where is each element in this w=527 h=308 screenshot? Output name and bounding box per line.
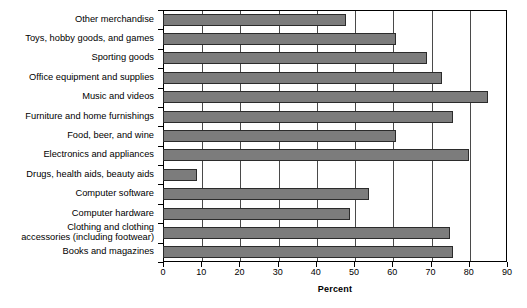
- bar: [163, 14, 346, 26]
- x-tick-label-60: 60: [380, 267, 404, 278]
- category-label-line: Office equipment and supplies: [0, 72, 154, 83]
- x-tick-label-40: 40: [304, 267, 328, 278]
- bar: [163, 91, 488, 103]
- category-label-line: Books and magazines: [0, 246, 154, 257]
- category-label-line: Toys, hobby goods, and games: [0, 33, 154, 44]
- category-label: Drugs, health aids, beauty aids: [0, 169, 154, 180]
- x-tick-label-80: 80: [457, 267, 481, 278]
- category-label-line: Other merchandise: [0, 14, 154, 25]
- gridline-80: [470, 11, 471, 261]
- x-tick-label-10: 10: [189, 267, 213, 278]
- category-label-line: Food, beer, and wine: [0, 130, 154, 141]
- category-label-line: Computer hardware: [0, 208, 154, 219]
- y-tick: [158, 165, 163, 166]
- x-axis-title: Percent: [163, 284, 507, 294]
- x-tick-label-90: 90: [495, 267, 519, 278]
- category-label-line: accessories (including footwear): [0, 232, 154, 243]
- x-tick-label-30: 30: [266, 267, 290, 278]
- category-label: Clothing and clothingaccessories (includ…: [0, 222, 154, 243]
- bar: [163, 33, 396, 45]
- bar-chart: Other merchandiseToys, hobby goods, and …: [0, 0, 527, 308]
- category-label: Food, beer, and wine: [0, 130, 154, 141]
- category-label: Office equipment and supplies: [0, 72, 154, 83]
- category-label: Books and magazines: [0, 246, 154, 257]
- category-label-line: Drugs, health aids, beauty aids: [0, 169, 154, 180]
- category-label: Toys, hobby goods, and games: [0, 33, 154, 44]
- category-label-line: Computer software: [0, 188, 154, 199]
- bar: [163, 130, 396, 142]
- gridline-70: [432, 11, 433, 261]
- bar: [163, 246, 453, 258]
- bar: [163, 149, 469, 161]
- bar: [163, 188, 369, 200]
- bar: [163, 52, 427, 64]
- bar: [163, 227, 450, 239]
- category-label-line: Furniture and home furnishings: [0, 111, 154, 122]
- category-label-line: Clothing and clothing: [0, 222, 154, 233]
- category-label: Other merchandise: [0, 14, 154, 25]
- y-tick: [158, 49, 163, 50]
- category-label-line: Sporting goods: [0, 52, 154, 63]
- x-tick-label-70: 70: [419, 267, 443, 278]
- y-tick: [158, 146, 163, 147]
- x-tick-label-0: 0: [151, 267, 175, 278]
- y-tick: [158, 107, 163, 108]
- y-tick: [158, 184, 163, 185]
- category-label: Computer software: [0, 188, 154, 199]
- y-tick: [158, 68, 163, 69]
- category-label-line: Electronics and appliances: [0, 149, 154, 160]
- y-tick: [158, 204, 163, 205]
- y-tick: [158, 223, 163, 224]
- x-tick-label-50: 50: [342, 267, 366, 278]
- category-label: Music and videos: [0, 91, 154, 102]
- y-tick: [158, 29, 163, 30]
- bar: [163, 208, 350, 220]
- y-tick: [158, 243, 163, 244]
- bar: [163, 72, 442, 84]
- bar: [163, 169, 197, 181]
- category-label: Computer hardware: [0, 208, 154, 219]
- y-tick: [158, 10, 163, 11]
- y-tick: [158, 126, 163, 127]
- x-tick-label-20: 20: [227, 267, 251, 278]
- bar: [163, 111, 453, 123]
- y-tick: [158, 88, 163, 89]
- category-label: Sporting goods: [0, 52, 154, 63]
- category-label: Electronics and appliances: [0, 149, 154, 160]
- category-label: Furniture and home furnishings: [0, 111, 154, 122]
- category-label-line: Music and videos: [0, 91, 154, 102]
